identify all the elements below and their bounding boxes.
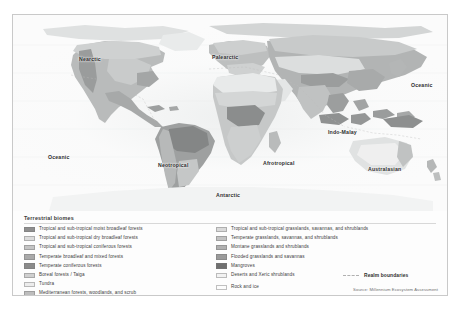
realm-label-indo-malay: Indo-Malay: [328, 130, 357, 135]
legend-item-label: Temperate broadleaf and mixed forests: [39, 255, 123, 260]
realm-label-palearctic: Palearctic: [212, 55, 238, 60]
realm-label-afrotropical: Afrotropical: [263, 161, 295, 166]
legend-item-label: Tropical and sub-tropical coniferous for…: [39, 245, 132, 250]
legend-item: Flooded grasslands and savannas: [216, 253, 438, 262]
legend-item-label: Tropical and sub-tropical dry broadleaf …: [39, 236, 138, 241]
legend-swatch: [24, 282, 35, 287]
world-map: Nearctic Palearctic Oceanic Indo-Malay O…: [13, 15, 447, 211]
legend-item-label: Mangroves: [231, 264, 255, 269]
realm-label-antarctic: Antarctic: [216, 193, 240, 198]
legend-item: Tundra: [24, 280, 220, 289]
legend-item: Tropical and sub-tropical dry broadleaf …: [24, 234, 220, 243]
legend-item-label: Boreal forests / Taiga: [39, 273, 85, 278]
legend-column-right: Tropical and sub-tropical grasslands, sa…: [216, 225, 438, 280]
south-america: [155, 123, 215, 197]
legend-item: Tropical and sub-tropical grasslands, sa…: [216, 225, 438, 234]
legend-item-label: Tropical and sub-tropical grasslands, sa…: [231, 227, 368, 232]
legend-item: Temperate broadleaf and mixed forests: [24, 253, 220, 262]
legend-item-label: Montane grasslands and shrublands: [231, 245, 309, 250]
realm-label-oceanic-east: Oceanic: [411, 83, 432, 88]
legend-swatch: [216, 236, 227, 241]
realm-label-neotropical: Neotropical: [158, 163, 189, 168]
dashed-line-icon: [343, 275, 359, 276]
legend-item-label: Rock and ice: [231, 285, 259, 290]
legend-swatch: [216, 285, 227, 290]
legend-swatch: [216, 263, 227, 268]
legend-item: Montane grasslands and shrublands: [216, 243, 438, 252]
legend-item: Mediterranean forests, woodlands, and sc…: [24, 289, 220, 296]
legend-swatch: [216, 227, 227, 232]
north-america: [71, 41, 179, 127]
legend-item-label: Temperate coniferous forests: [39, 264, 102, 269]
legend-item: Boreal forests / Taiga: [24, 271, 220, 280]
legend-item-label: Tundra: [39, 282, 54, 287]
legend-item: Temperate coniferous forests: [24, 262, 220, 271]
legend-item: Mangroves: [216, 262, 438, 271]
realm-label-australasian: Australasian: [368, 167, 401, 172]
legend-item-label: Temperate grasslands, savannas, and shru…: [231, 236, 338, 241]
legend-swatch: [216, 245, 227, 250]
antarctica: [49, 187, 433, 211]
legend-item-label: Tropical and sub-tropical moist broadlea…: [39, 227, 143, 232]
legend-title: Terrestrial biomes: [24, 215, 74, 221]
realm-label-oceanic-west: Oceanic: [48, 155, 69, 160]
legend-swatch: [24, 227, 35, 232]
legend-item: Temperate grasslands, savannas, and shru…: [216, 234, 438, 243]
map-legend: Terrestrial biomes Tropical and sub-trop…: [13, 211, 447, 296]
source-attribution: Source: Millennium Ecosystem Assessment: [353, 287, 438, 292]
legend-swatch: [24, 291, 35, 296]
legend-column-left: Tropical and sub-tropical moist broadlea…: [24, 225, 220, 296]
legend-item-label: Deserts and Xeric shrublands: [231, 273, 295, 278]
legend-divider: [24, 223, 436, 224]
legend-item-label: Mediterranean forests, woodlands, and sc…: [39, 291, 136, 296]
legend-item-realm-boundaries: Realm boundaries: [343, 273, 408, 278]
legend-swatch: [24, 245, 35, 250]
legend-item-label: Realm boundaries: [364, 273, 408, 278]
legend-swatch: [216, 273, 227, 278]
legend-swatch: [24, 273, 35, 278]
legend-item: Tropical and sub-tropical coniferous for…: [24, 243, 220, 252]
legend-item: Tropical and sub-tropical moist broadlea…: [24, 225, 220, 234]
figure-frame: Nearctic Palearctic Oceanic Indo-Malay O…: [12, 14, 448, 296]
legend-swatch: [24, 263, 35, 268]
legend-swatch: [24, 254, 35, 259]
landmass-layer: [13, 15, 447, 211]
africa: [213, 73, 283, 165]
legend-swatch: [216, 254, 227, 259]
legend-item-rock-and-ice: Rock and ice: [216, 285, 259, 290]
legend-item-label: Flooded grasslands and savannas: [231, 255, 305, 260]
realm-label-nearctic: Nearctic: [79, 57, 101, 62]
legend-swatch: [24, 236, 35, 241]
